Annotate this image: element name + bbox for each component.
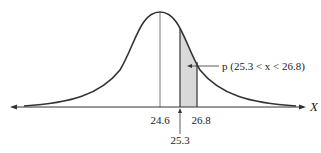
probability-annotation: p (25.3 < x < 26.8) — [222, 60, 305, 73]
axis-right-arrow-icon — [299, 105, 306, 110]
axis-left-arrow-icon — [10, 105, 17, 110]
normal-distribution-chart: X 24.6 26.8 25.3 p (25.3 < x < 26.8) — [0, 0, 321, 153]
chart-canvas: X 24.6 26.8 25.3 p (25.3 < x < 26.8) — [0, 0, 321, 153]
x-axis-label: X — [309, 99, 319, 114]
upper-label: 26.8 — [191, 114, 211, 126]
up-arrow-icon — [178, 108, 182, 113]
mean-label: 24.6 — [150, 114, 170, 126]
lower-label: 25.3 — [170, 134, 190, 146]
